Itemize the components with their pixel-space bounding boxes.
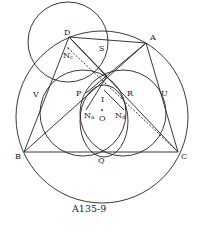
label-i: I (101, 95, 104, 104)
point-nc (67, 47, 69, 49)
label-s: S (99, 44, 104, 53)
label-na: Na (84, 111, 95, 120)
label-r: R (127, 89, 134, 98)
label-c: C (181, 152, 187, 161)
label-q: Q (98, 156, 105, 165)
geometry-diagram: D S A Nc V P I R U Na O Nd B Q C A135-9 (0, 0, 197, 232)
label-nc: Nc (63, 51, 73, 60)
label-v: V (32, 90, 39, 99)
label-a: A (149, 33, 156, 42)
label-u: U (161, 89, 168, 98)
label-d: D (64, 28, 70, 37)
circle-through-d (28, 2, 108, 82)
label-p: P (76, 89, 82, 98)
label-o: O (99, 114, 106, 123)
label-b: B (15, 152, 21, 161)
label-nd: Nd (115, 111, 126, 120)
point-o (101, 109, 103, 111)
figure-caption: A135-9 (71, 203, 106, 214)
